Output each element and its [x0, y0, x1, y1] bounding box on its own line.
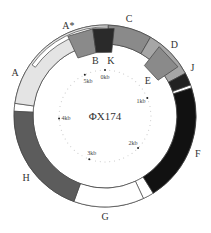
- scale-dot: [150, 111, 151, 112]
- scale-dot: [86, 158, 87, 159]
- scale-dot: [135, 81, 136, 82]
- scale-dot: [95, 161, 96, 162]
- tick-mark-2kb: [137, 147, 139, 149]
- scale-dot: [65, 139, 66, 140]
- tick-label-0kb: 0kb: [101, 74, 110, 80]
- scale-dot: [82, 76, 83, 77]
- scale-dot: [150, 120, 151, 121]
- scale-dot: [135, 150, 136, 151]
- gene-label-d: D: [171, 39, 178, 50]
- scale-dot: [100, 161, 101, 162]
- gene-label-j: J: [191, 62, 195, 73]
- gene-label-b: B: [92, 55, 99, 66]
- scale-dot: [70, 85, 71, 86]
- scale-dot: [59, 120, 60, 121]
- scale-dot: [74, 81, 75, 82]
- scale-dot: [123, 158, 124, 159]
- gene-label-g: G: [101, 211, 108, 222]
- scale-dot: [95, 71, 96, 72]
- scale-dot: [150, 125, 151, 126]
- scale-dot: [67, 143, 68, 144]
- scale-dot: [144, 93, 145, 94]
- tick-mark-3kb: [88, 158, 90, 160]
- scale-dot: [90, 72, 91, 73]
- scale-dot: [78, 153, 79, 154]
- gene-k: [93, 28, 114, 52]
- scale-dot: [60, 106, 61, 107]
- scale-dot: [86, 74, 87, 75]
- tick-label-1kb: 1kb: [136, 98, 145, 104]
- tick-label-5kb: 5kb: [83, 78, 92, 84]
- scale-dot: [128, 76, 129, 77]
- scale-dot: [132, 78, 133, 79]
- gene-label-h: H: [23, 172, 30, 183]
- gene-label-c: C: [126, 13, 133, 24]
- scale-dot: [148, 101, 149, 102]
- scale-dot: [123, 74, 124, 75]
- scale-dot: [74, 150, 75, 151]
- tick-mark-4kb: [58, 117, 60, 119]
- scale-dot: [132, 153, 133, 154]
- scale-dot: [150, 106, 151, 107]
- gene-label-e: E: [145, 75, 151, 86]
- scale-dot: [147, 134, 148, 135]
- scale-dot: [151, 116, 152, 117]
- scale-dot: [139, 146, 140, 147]
- scale-dot: [114, 161, 115, 162]
- scale-dot: [142, 143, 143, 144]
- gene-label-k: K: [107, 55, 115, 66]
- scale-dot: [61, 101, 62, 102]
- tick-label-3kb: 3kb: [87, 150, 96, 156]
- scale-dot: [65, 93, 66, 94]
- scale-dot: [142, 89, 143, 90]
- scale-dot: [109, 161, 110, 162]
- gene-g: [74, 181, 144, 207]
- gene-f: [143, 88, 196, 193]
- scale-dot: [128, 155, 129, 156]
- tick-mark-5kb: [84, 74, 86, 76]
- scale-dot: [63, 134, 64, 135]
- scale-dot: [119, 72, 120, 73]
- gene-label-f: F: [195, 148, 201, 159]
- scale-dot: [114, 71, 115, 72]
- gene-label-a-star: A*: [62, 20, 74, 31]
- scale-dot: [139, 85, 140, 86]
- scale-dot: [70, 146, 71, 147]
- scale-dot: [61, 130, 62, 131]
- scale-dot: [63, 97, 64, 98]
- gene-h: [14, 111, 80, 201]
- scale-dot: [105, 162, 106, 163]
- scale-dot: [148, 130, 149, 131]
- scale-dot: [100, 70, 101, 71]
- tick-mark-1kb: [146, 97, 148, 99]
- scale-dot: [59, 111, 60, 112]
- tick-label-4kb: 4kb: [62, 115, 71, 121]
- scale-dot: [60, 125, 61, 126]
- scale-dot: [78, 78, 79, 79]
- scale-dot: [144, 139, 145, 140]
- tick-label-2kb: 2kb: [129, 140, 138, 146]
- scale-dot: [119, 159, 120, 160]
- genome-title: ΦX174: [89, 110, 122, 122]
- gene-label-a: A: [12, 67, 20, 78]
- scale-dot: [59, 116, 60, 117]
- tick-mark-0kb: [104, 69, 106, 71]
- scale-dot: [82, 155, 83, 156]
- scale-dot: [67, 89, 68, 90]
- phix174-genome-map: 0kb1kb2kb3kb4kb5kb CDEJFGHAA*BK ΦX174: [0, 0, 211, 233]
- scale-dot: [109, 70, 110, 71]
- scale-dot: [90, 159, 91, 160]
